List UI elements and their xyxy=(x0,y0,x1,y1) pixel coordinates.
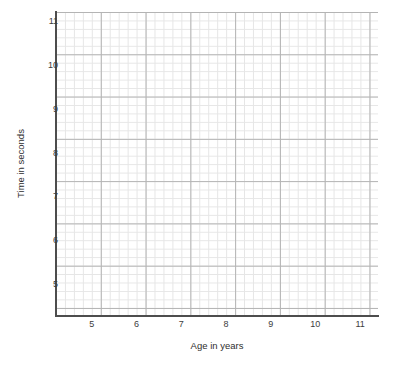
major-gridlines xyxy=(56,12,378,315)
y-tick-label: 11 xyxy=(49,16,58,25)
y-tick-label: 9 xyxy=(53,104,58,113)
x-tick-label: 5 xyxy=(89,320,94,329)
y-tick-label: 10 xyxy=(48,60,58,69)
y-tick-label: 5 xyxy=(53,280,58,289)
y-tick-label: 6 xyxy=(53,236,58,245)
scatter-plot-graph: 567891011 111098765 Age in years Time in… xyxy=(0,0,398,368)
x-tick-label: 9 xyxy=(268,320,273,329)
x-axis-line xyxy=(55,315,379,317)
y-tick-label: 8 xyxy=(53,148,58,157)
x-axis-title: Age in years xyxy=(56,340,378,351)
x-tick-label: 8 xyxy=(223,320,228,329)
y-axis-line xyxy=(55,11,57,316)
x-tick-label: 6 xyxy=(134,320,139,329)
x-tick-label: 11 xyxy=(355,320,364,329)
y-tick-label: 7 xyxy=(53,192,58,201)
y-axis-title: Time in seconds xyxy=(14,12,28,315)
x-tick-label: 7 xyxy=(179,320,184,329)
x-tick-label: 10 xyxy=(310,320,320,329)
plot-area xyxy=(56,12,378,315)
